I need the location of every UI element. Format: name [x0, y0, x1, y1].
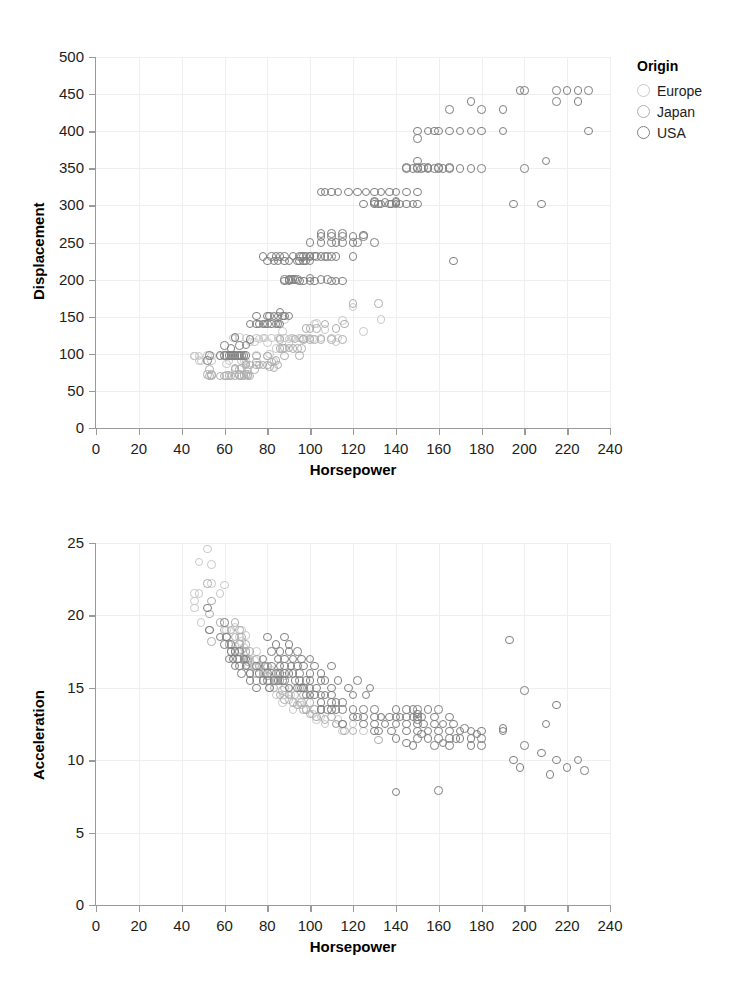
- gridline-vertical: [267, 543, 268, 905]
- y-axis-tick-label: 25: [34, 534, 84, 551]
- legend-marker-icon: [637, 105, 650, 118]
- data-point: [285, 684, 294, 693]
- data-point: [359, 713, 368, 722]
- x-axis-tick: [353, 906, 354, 912]
- y-axis-tick: [89, 688, 95, 689]
- data-point: [280, 633, 289, 642]
- data-point: [297, 655, 306, 664]
- chart-page: Displacement Horsepower 0501001502002503…: [0, 0, 730, 988]
- data-point: [327, 662, 336, 671]
- data-point: [205, 626, 214, 635]
- legend-item-europe[interactable]: Europe: [637, 80, 702, 101]
- data-point: [207, 560, 216, 569]
- legend-marker-icon: [637, 84, 650, 97]
- data-point: [359, 720, 368, 729]
- data-point: [563, 763, 572, 772]
- data-point: [190, 597, 199, 606]
- y-axis-tick: [89, 833, 95, 834]
- scatter-plot-acceleration: Acceleration Horsepower 0510152025020406…: [0, 0, 640, 988]
- data-point: [220, 618, 229, 627]
- legend-marker-icon: [637, 126, 650, 139]
- legend-item-label: Europe: [657, 83, 702, 99]
- plot-area-acceleration: [96, 543, 610, 905]
- gridline-vertical: [139, 543, 140, 905]
- data-point: [349, 727, 358, 736]
- data-point: [574, 756, 583, 765]
- gridline-horizontal: [96, 543, 610, 544]
- data-point: [306, 669, 315, 678]
- y-axis-tick-label: 20: [34, 606, 84, 623]
- data-point: [197, 618, 206, 627]
- data-point: [392, 720, 401, 729]
- data-point: [252, 684, 261, 693]
- data-point: [366, 684, 375, 693]
- data-point: [537, 749, 546, 758]
- legend-title: Origin: [637, 58, 702, 74]
- x-axis-tick: [225, 906, 226, 912]
- data-point: [203, 604, 212, 613]
- data-point: [552, 701, 561, 710]
- data-point: [353, 676, 362, 685]
- legend-item-label: Japan: [657, 104, 695, 120]
- data-point: [516, 763, 525, 772]
- x-axis-tick: [96, 906, 97, 912]
- data-point: [216, 589, 225, 598]
- data-point: [334, 676, 343, 685]
- data-point: [312, 713, 321, 722]
- data-point: [580, 766, 589, 775]
- data-point: [267, 647, 276, 656]
- data-point: [374, 727, 383, 736]
- data-point: [344, 684, 353, 693]
- x-axis-tick: [267, 906, 268, 912]
- x-axis-title-horsepower-bottom: Horsepower: [253, 938, 453, 955]
- data-point: [409, 741, 418, 750]
- gridline-horizontal: [96, 833, 610, 834]
- data-point: [417, 730, 426, 739]
- data-point: [430, 741, 439, 750]
- data-point: [203, 545, 212, 554]
- data-point: [195, 558, 204, 567]
- data-point: [460, 724, 469, 733]
- data-point: [207, 637, 216, 646]
- data-point: [285, 640, 294, 649]
- data-point: [338, 698, 347, 707]
- data-point: [370, 705, 379, 714]
- gridline-horizontal: [96, 688, 610, 689]
- data-point: [338, 720, 347, 729]
- gridline-vertical: [310, 543, 311, 905]
- legend-item-japan[interactable]: Japan: [637, 101, 702, 122]
- data-point: [392, 734, 401, 743]
- data-point: [362, 691, 371, 700]
- data-point: [452, 734, 461, 743]
- data-point: [402, 727, 411, 736]
- gridline-horizontal: [96, 760, 610, 761]
- gridline-vertical: [610, 543, 611, 905]
- x-axis-tick: [310, 906, 311, 912]
- data-point: [434, 786, 443, 795]
- data-point: [190, 604, 199, 613]
- gridline-vertical: [182, 543, 183, 905]
- data-point: [520, 741, 529, 750]
- y-axis-tick: [89, 543, 95, 544]
- y-axis-tick-label: 10: [34, 751, 84, 768]
- gridline-vertical: [482, 543, 483, 905]
- y-axis-line: [95, 543, 96, 906]
- x-axis-tick: [524, 906, 525, 912]
- legend-item-label: USA: [657, 125, 686, 141]
- legend-item-usa[interactable]: USA: [637, 122, 702, 143]
- x-axis-tick: [610, 906, 611, 912]
- data-point: [424, 705, 433, 714]
- data-point: [467, 741, 476, 750]
- x-axis-tick: [439, 906, 440, 912]
- y-axis-tick-label: 15: [34, 679, 84, 696]
- gridline-horizontal: [96, 615, 610, 616]
- data-point: [542, 720, 551, 729]
- data-point: [505, 636, 514, 645]
- data-point: [338, 705, 347, 714]
- data-point: [195, 589, 204, 598]
- data-point: [434, 705, 443, 714]
- data-point: [340, 727, 349, 736]
- x-axis-tick-label: 240: [585, 917, 635, 934]
- x-axis-tick: [482, 906, 483, 912]
- y-axis-tick-label: 0: [34, 896, 84, 913]
